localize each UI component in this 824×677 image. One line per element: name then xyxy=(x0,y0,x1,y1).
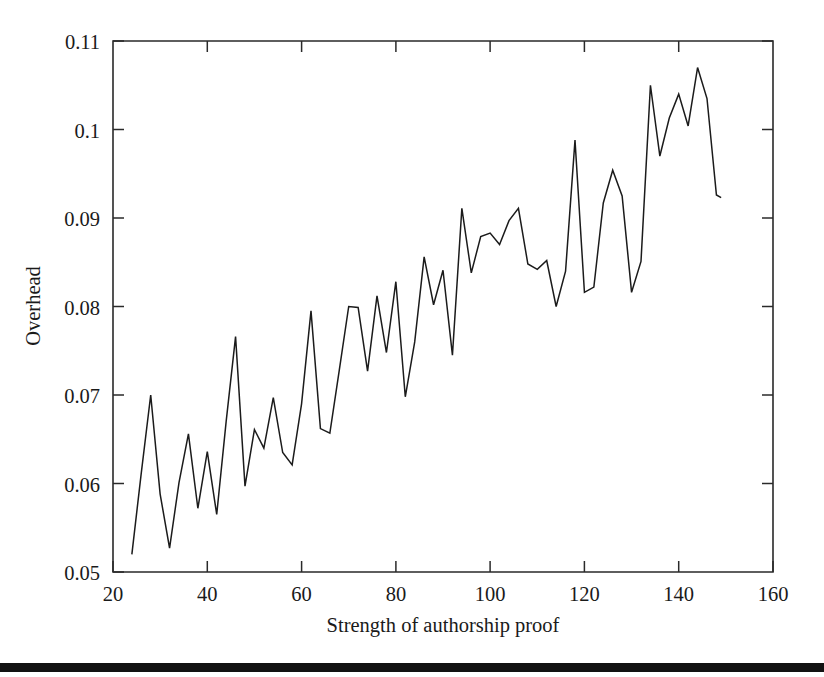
x-tick-label-40: 40 xyxy=(197,583,218,605)
x-tick-label-100: 100 xyxy=(475,583,506,605)
y-tick-label-0.08: 0.08 xyxy=(64,297,100,319)
x-axis-ticks-top xyxy=(207,41,678,52)
x-tick-label-80: 80 xyxy=(386,583,407,605)
data-series-overhead xyxy=(132,68,721,555)
x-tick-label-140: 140 xyxy=(663,583,694,605)
y-tick-label-0.06: 0.06 xyxy=(64,474,100,496)
x-tick-label-20: 20 xyxy=(103,583,124,605)
y-axis-ticks xyxy=(113,41,124,572)
y-tick-label-0.09: 0.09 xyxy=(64,208,100,230)
x-tick-label-160: 160 xyxy=(758,583,789,605)
y-tick-labels: 0.11 0.1 0.09 0.08 0.07 0.06 0.05 xyxy=(64,31,100,584)
x-tick-labels: 20 40 60 80 100 120 140 160 xyxy=(103,583,789,605)
page-bottom-rule xyxy=(0,663,824,672)
y-axis-title: Overhead xyxy=(22,266,44,346)
y-tick-label-0.11: 0.11 xyxy=(65,31,100,53)
x-tick-label-120: 120 xyxy=(569,583,600,605)
plot-frame xyxy=(113,41,773,572)
line-chart: 0.11 0.1 0.09 0.08 0.07 0.06 0.05 20 40 … xyxy=(0,0,824,677)
x-axis-title: Strength of authorship proof xyxy=(327,614,560,637)
y-tick-label-0.1: 0.1 xyxy=(74,120,100,142)
x-tick-label-60: 60 xyxy=(291,583,312,605)
x-axis-ticks xyxy=(113,561,773,572)
y-axis-ticks-right xyxy=(762,41,773,484)
y-tick-label-0.05: 0.05 xyxy=(64,562,100,584)
figure-canvas: 0.11 0.1 0.09 0.08 0.07 0.06 0.05 20 40 … xyxy=(0,0,824,677)
axis-frame-path xyxy=(113,41,773,572)
y-tick-label-0.07: 0.07 xyxy=(64,385,100,407)
